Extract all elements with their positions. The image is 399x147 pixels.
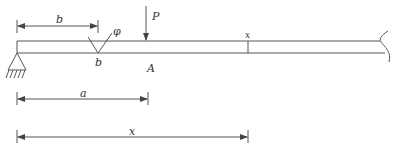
beam [17, 41, 385, 53]
notch-angle-label: φ [113, 25, 121, 38]
load-label: P [151, 10, 160, 23]
dim-b-label: b [56, 13, 63, 26]
notch-label: b [95, 56, 102, 69]
break-line-icon [380, 31, 390, 62]
section-x-label: x [245, 30, 250, 40]
notch-icon: φ b [88, 25, 121, 69]
point-a-label: A [146, 62, 155, 75]
dimension-a: a [17, 87, 148, 105]
dimension-x: x [17, 125, 248, 143]
load-arrow-icon: P [146, 6, 160, 40]
dim-a-label: a [80, 87, 87, 100]
pin-support-icon [6, 53, 26, 78]
beam-diagram: b φ b P A x a x [0, 0, 399, 147]
dim-x-label: x [129, 125, 136, 138]
dimension-b: b [17, 13, 98, 33]
